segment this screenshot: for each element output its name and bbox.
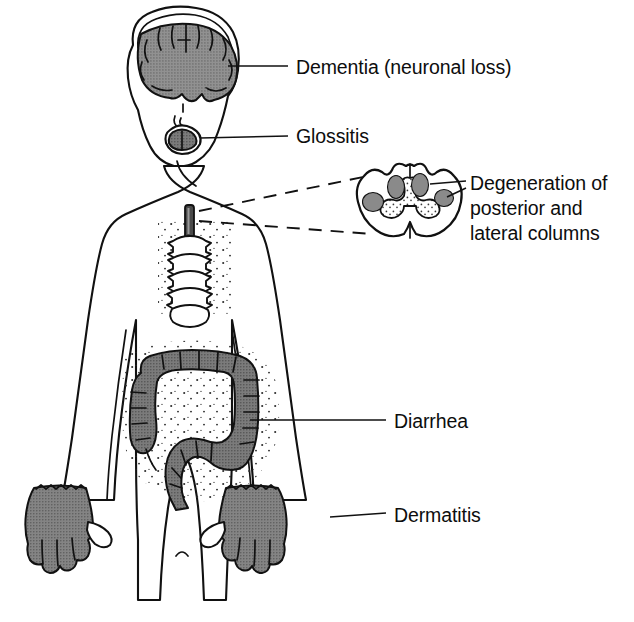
right-hand [219, 486, 287, 574]
leader-dermatitis [330, 513, 386, 517]
vertebrae [167, 236, 212, 327]
spinal-cord-highlight [188, 208, 190, 234]
label-dermatitis: Dermatitis [394, 504, 481, 526]
label-degeneration: Degeneration of posterior and lateral co… [470, 172, 608, 244]
lesion-posterior-left [388, 176, 405, 199]
label-degeneration-line-2: posterior and [470, 197, 583, 219]
left-hand [25, 486, 93, 574]
lesion-lateral-right [435, 190, 454, 207]
crotch-notch [176, 552, 188, 556]
labels-group: Dementia (neuronal loss) Glossitis Degen… [296, 56, 608, 526]
label-dementia: Dementia (neuronal loss) [296, 56, 511, 78]
clinical-features-diagram: Dementia (neuronal loss) Glossitis Degen… [0, 0, 634, 622]
lesion-lateral-left [363, 193, 384, 212]
brain-group [138, 24, 237, 101]
connector-upper [199, 176, 368, 211]
lesion-posterior-right [412, 174, 429, 197]
diagram-canvas: Dementia (neuronal loss) Glossitis Degen… [0, 0, 634, 622]
label-diarrhea: Diarrhea [394, 410, 468, 432]
left-thumb [87, 522, 112, 547]
spinal-cord-cross-section [357, 164, 462, 238]
label-glossitis: Glossitis [296, 125, 369, 147]
vertebra-5 [170, 305, 209, 327]
label-degeneration-line-1: Degeneration of [470, 172, 608, 194]
label-degeneration-line-3: lateral columns [470, 222, 600, 244]
